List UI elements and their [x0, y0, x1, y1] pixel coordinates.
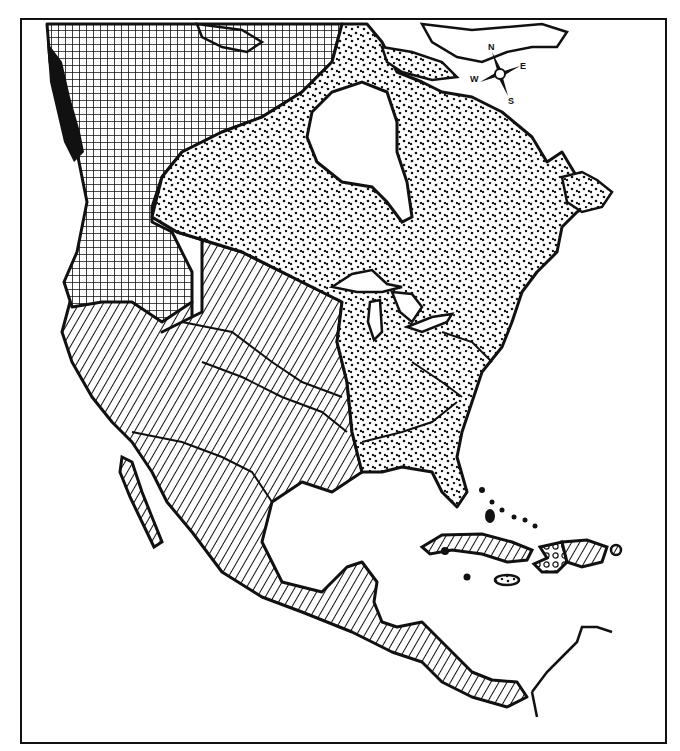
map-frame: N E S W: [20, 18, 667, 744]
greenland: [422, 24, 567, 62]
compass-label-west: W: [470, 74, 479, 84]
cuba: [422, 534, 532, 562]
compass-label-east: E: [520, 61, 526, 71]
north-america-map: N E S W: [22, 20, 667, 744]
dominican-republic: [562, 540, 607, 567]
compass-label-south: S: [508, 96, 514, 106]
compass-label-north: N: [488, 42, 495, 52]
jamaica: [495, 575, 519, 585]
puerto-rico: [611, 545, 621, 555]
south-america-coast: [532, 627, 612, 717]
